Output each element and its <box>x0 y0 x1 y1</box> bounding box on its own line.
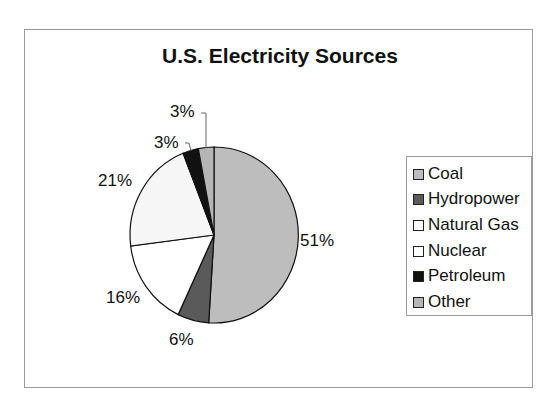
slice-coal[interactable] <box>209 147 299 323</box>
legend-label: Hydropower <box>428 189 520 209</box>
swatch-icon <box>413 194 424 205</box>
swatch-icon <box>413 220 424 231</box>
legend-item-nuclear[interactable]: Nuclear <box>413 238 487 264</box>
legend-label: Petroleum <box>428 266 505 286</box>
label-other: 3% <box>170 102 195 122</box>
legend-label: Other <box>428 292 471 312</box>
label-hydropower: 6% <box>169 330 194 350</box>
legend: Coal Hydropower Natural Gas Nuclear Petr… <box>406 156 532 316</box>
legend-item-natural-gas[interactable]: Natural Gas <box>413 212 519 238</box>
legend-label: Coal <box>428 164 463 184</box>
swatch-icon <box>413 246 424 257</box>
swatch-icon <box>413 297 424 308</box>
swatch-icon <box>413 271 424 282</box>
legend-item-petroleum[interactable]: Petroleum <box>413 263 505 289</box>
leader-line-petroleum <box>185 143 191 151</box>
label-natural-gas: 16% <box>106 288 140 308</box>
legend-label: Nuclear <box>428 241 487 261</box>
legend-item-coal[interactable]: Coal <box>413 161 463 187</box>
swatch-icon <box>413 169 424 180</box>
legend-item-hydropower[interactable]: Hydropower <box>413 186 520 212</box>
label-petroleum: 3% <box>154 133 179 153</box>
label-nuclear: 21% <box>98 171 132 191</box>
leader-line-other <box>201 113 206 148</box>
label-coal: 51% <box>300 231 334 251</box>
legend-label: Natural Gas <box>428 215 519 235</box>
legend-item-other[interactable]: Other <box>413 289 471 315</box>
